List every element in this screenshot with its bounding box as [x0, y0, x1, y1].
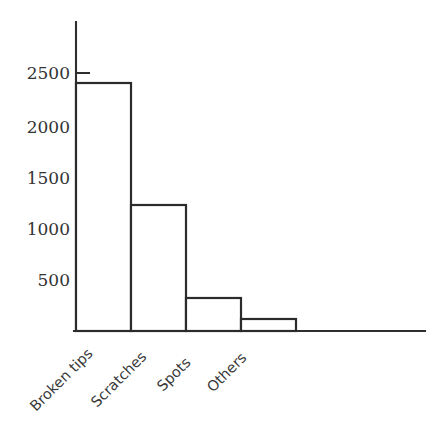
y-tick-label-2500: 2500 — [27, 63, 70, 83]
bar-scratches[interactable] — [131, 205, 186, 331]
chart-canvas: 500 1000 1500 2000 2500 Broken tips Scra… — [0, 0, 448, 429]
bar-others[interactable] — [241, 319, 296, 331]
y-tick-label-1000: 1000 — [27, 219, 70, 239]
y-tick-label-1500: 1500 — [27, 168, 70, 188]
bar-spots[interactable] — [186, 298, 241, 331]
bar-chart: 500 1000 1500 2000 2500 Broken tips Scra… — [0, 0, 448, 429]
y-tick-label-2000: 2000 — [27, 117, 70, 137]
y-tick-label-500: 500 — [38, 270, 70, 290]
bar-broken-tips[interactable] — [76, 83, 131, 331]
